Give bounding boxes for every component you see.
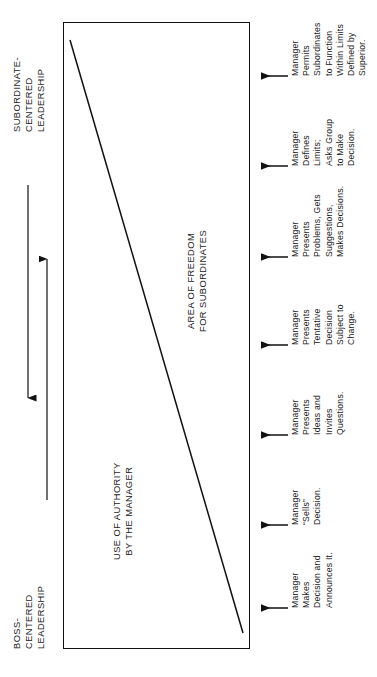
endpoint-line: LEADERSHIP xyxy=(36,57,48,132)
behavior-caption-5: Manager Presents Problems, Gets Suggesti… xyxy=(290,186,346,257)
caption-line: Manager xyxy=(290,119,301,166)
caption-line: Defined by xyxy=(346,22,357,76)
behavior-caption-4: Manager Presents Tentative Decision Subj… xyxy=(290,304,357,345)
boss-centered-leadership-label: BOSS- CENTERED LEADERSHIP xyxy=(12,586,48,649)
behavior-caption-7: Manager Permits Subordinates to Function… xyxy=(290,22,368,76)
caption-line: Problems, Gets xyxy=(312,186,323,257)
caption-line: “Sells” xyxy=(301,487,312,525)
region-line: USE OF AUTHORITY xyxy=(112,462,124,560)
caption-line: Change. xyxy=(346,304,357,345)
caption-line: to Function xyxy=(324,22,335,76)
caption-line: Invites xyxy=(324,391,335,435)
subordinate-centered-leadership-label: SUBORDINATE- CENTERED LEADERSHIP xyxy=(12,57,48,132)
endpoint-line: CENTERED xyxy=(24,57,36,132)
endpoint-line: SUBORDINATE- xyxy=(12,57,24,132)
use-of-authority-label: USE OF AUTHORITY BY THE MANAGER xyxy=(112,462,136,560)
caption-line: Presents xyxy=(301,391,312,435)
behavior-caption-6: Manager Defines Limits; Asks Group to Ma… xyxy=(290,119,357,166)
caption-line: Manager xyxy=(290,186,301,257)
caption-line: Superior. xyxy=(357,22,368,76)
caption-line: Subject to xyxy=(335,304,346,345)
caption-line: to Make xyxy=(335,119,346,166)
caption-line: Presents xyxy=(301,304,312,345)
caption-line: Decision and xyxy=(312,552,323,608)
caption-line: Decision. xyxy=(312,487,323,525)
endpoint-line: LEADERSHIP xyxy=(36,586,48,649)
caption-line: Defines xyxy=(301,119,312,166)
caption-line: Within Limits xyxy=(335,22,346,76)
region-line: BY THE MANAGER xyxy=(124,462,136,560)
caption-line: Presents xyxy=(301,186,312,257)
caption-line: Makes Decisions. xyxy=(335,186,346,257)
caption-line: Makes xyxy=(301,552,312,608)
caption-line: Manager xyxy=(290,391,301,435)
endpoint-line: BOSS- xyxy=(12,586,24,649)
caption-line: Questions. xyxy=(335,391,346,435)
caption-line: Decision xyxy=(324,304,335,345)
behavior-caption-1: Manager Makes Decision and Announces It. xyxy=(290,552,335,608)
caption-line: Suggestions, xyxy=(324,186,335,257)
caption-line: Manager xyxy=(290,22,301,76)
leadership-continuum-diagram: SUBORDINATE- CENTERED LEADERSHIP BOSS- C… xyxy=(0,0,377,677)
area-of-freedom-label: AREA OF FREEDOM FOR SUBORDINATES xyxy=(186,230,210,332)
behavior-caption-3: Manager Presents Ideas and Invites Quest… xyxy=(290,391,346,435)
caption-line: Manager xyxy=(290,487,301,525)
caption-line: Decision. xyxy=(346,119,357,166)
caption-line: Manager xyxy=(290,552,301,608)
caption-line: Subordinates xyxy=(312,22,323,76)
diagonal-divider-line xyxy=(70,40,243,633)
caption-line: Manager xyxy=(290,304,301,345)
behavior-callout-arrows xyxy=(261,76,288,608)
caption-line: Announces It. xyxy=(324,552,335,608)
region-line: AREA OF FREEDOM xyxy=(186,230,198,332)
region-line: FOR SUBORDINATES xyxy=(198,230,210,332)
endpoint-line: CENTERED xyxy=(24,586,36,649)
caption-line: Limits; xyxy=(312,119,323,166)
caption-line: Permits xyxy=(301,22,312,76)
behavior-caption-2: Manager “Sells” Decision. xyxy=(290,487,324,525)
caption-line: Tentative xyxy=(312,304,323,345)
caption-line: Ideas and xyxy=(312,391,323,435)
authority-freedom-divider xyxy=(63,22,251,650)
caption-line: Asks Group xyxy=(324,119,335,166)
